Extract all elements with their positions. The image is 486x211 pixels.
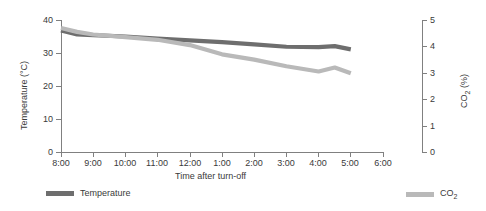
- legend-item-co2: CO2: [406, 189, 457, 200]
- plot-area: [0, 0, 486, 211]
- legend-item-temperature: Temperature: [46, 189, 131, 198]
- legend-label-co2: CO2: [440, 189, 457, 200]
- chart-container: 40 30 20 10 0 Temperature (°C) 8:00 9:00…: [0, 0, 486, 211]
- series-line-co2: [61, 28, 351, 73]
- legend-label-co2-subscript: 2: [454, 193, 458, 200]
- legend-label-temperature: Temperature: [80, 189, 131, 198]
- legend-swatch-temperature: [46, 191, 74, 196]
- legend-swatch-co2: [406, 192, 434, 197]
